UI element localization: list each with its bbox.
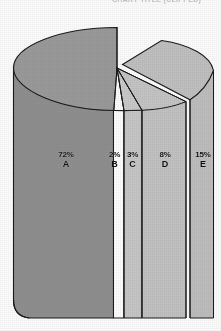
pie-chart-figure: CHART TITLE (CLIPPED)	[0, 0, 221, 331]
slice-C-side	[124, 110, 142, 318]
slice-B-side	[114, 111, 125, 319]
slice-D-side	[142, 102, 186, 319]
pie-chart-canvas	[0, 0, 221, 331]
slice-E-side	[190, 72, 214, 319]
